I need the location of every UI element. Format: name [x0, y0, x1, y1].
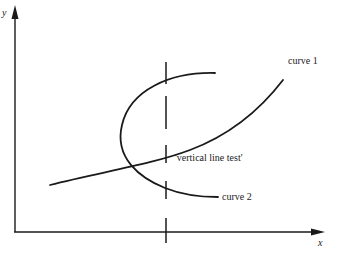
x-axis-label: x	[318, 238, 322, 248]
x-axis	[14, 229, 325, 236]
curve-2	[121, 73, 218, 197]
y-axis	[12, 5, 19, 232]
x-axis-arrow-icon	[311, 229, 325, 236]
diagram-canvas	[0, 0, 346, 255]
curve-1-label: curve 1	[288, 56, 318, 66]
curve-2-label: curve 2	[222, 192, 252, 202]
curve-1	[50, 80, 283, 185]
vertical-line-test-label: 'vertical line test'	[175, 153, 242, 163]
y-axis-arrow-icon	[12, 5, 19, 19]
y-axis-label: y	[2, 8, 6, 18]
